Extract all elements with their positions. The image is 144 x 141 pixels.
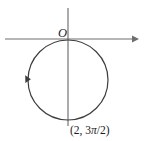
origin-label: O — [58, 26, 67, 40]
polar-circle-figure: O (2, 3π/2) — [0, 0, 144, 141]
horizontal-axis-arrowhead — [132, 35, 139, 42]
point-label-open: (2, 3 — [70, 124, 91, 137]
point-label-close: /2) — [97, 124, 110, 137]
point-label: (2, 3π/2) — [70, 124, 110, 137]
figure-canvas: O (2, 3π/2) — [0, 0, 144, 141]
